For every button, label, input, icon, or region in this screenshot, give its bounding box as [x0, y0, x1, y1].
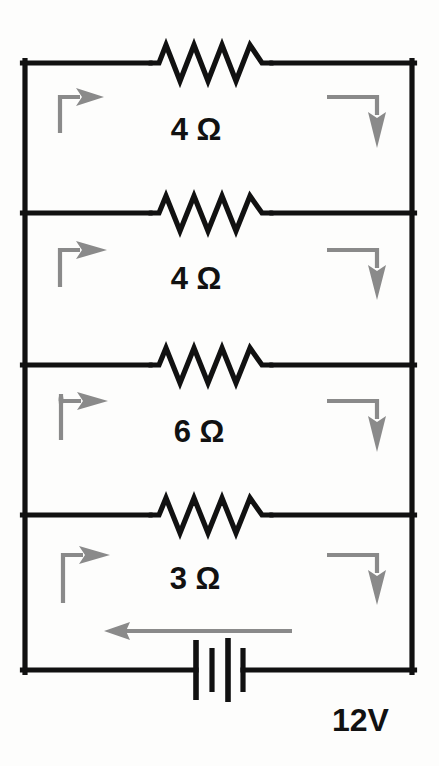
branch-4-resistor-symbol	[150, 498, 272, 533]
branch-3-group: 6 Ω	[23, 348, 415, 452]
branch-2-resistor-symbol	[150, 196, 272, 231]
branch-4-left-current-arrow	[63, 546, 110, 603]
circuit-canvas: 4 Ω 4 Ω	[0, 0, 439, 766]
battery-group	[196, 638, 243, 702]
branch-2-right-current-arrow	[327, 250, 386, 300]
branch-2-group: 4 Ω	[23, 196, 415, 300]
branch-4-right-current-arrow	[327, 555, 386, 605]
main-current-arrow	[104, 622, 292, 640]
branch-3-resistor-symbol	[150, 348, 272, 383]
branch-1-left-current-arrow	[60, 88, 104, 133]
branch-3-resistance-label: 6 Ω	[174, 414, 225, 449]
branch-3-right-current-arrow	[327, 401, 386, 452]
branch-3-left-current-arrow	[61, 392, 108, 440]
branch-1-resistor-symbol	[150, 45, 272, 81]
source-voltage-label: 12V	[332, 702, 390, 738]
branch-1-group: 4 Ω	[23, 45, 415, 148]
branch-4-group: 3 Ω	[23, 498, 415, 605]
branch-1-resistance-label: 4 Ω	[171, 112, 222, 147]
branch-1-right-current-arrow	[327, 97, 386, 148]
branch-2-left-current-arrow	[60, 241, 107, 287]
branch-2-resistance-label: 4 Ω	[171, 261, 222, 296]
circuit-diagram: 4 Ω 4 Ω	[0, 0, 439, 766]
branch-4-resistance-label: 3 Ω	[170, 561, 221, 596]
